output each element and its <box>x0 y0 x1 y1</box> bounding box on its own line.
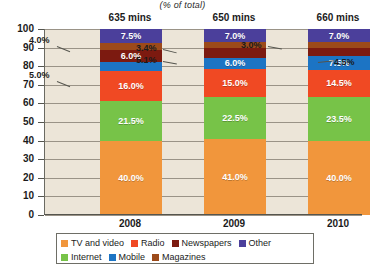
callout-label: 5.0% <box>29 70 50 80</box>
y-axis-tick <box>38 103 44 104</box>
y-axis-tick-label: 70 <box>0 79 34 90</box>
x-axis-label-2010: 2010 <box>288 218 374 229</box>
y-axis-tick <box>38 48 44 49</box>
legend-item-newspapers[interactable]: Newspapers <box>172 238 232 248</box>
bar-segment-newspapers <box>308 48 370 56</box>
bar-segment-mobile: 6.0% <box>204 58 266 69</box>
legend-swatch <box>239 240 246 247</box>
grid-line <box>45 215 362 216</box>
x-axis-label-2009: 2009 <box>184 218 284 229</box>
y-axis-tick <box>38 66 44 67</box>
y-axis-tick <box>38 215 44 216</box>
bar-segment-internet: 21.5% <box>100 101 162 141</box>
legend-item-other[interactable]: Other <box>239 238 272 248</box>
group-note-2008: 635 mins <box>80 12 180 23</box>
y-axis-tick-label: 60 <box>0 97 34 108</box>
legend-item-mobile[interactable]: Mobile <box>109 252 146 262</box>
plot-area: 40.0%21.5%16.0%6.0%7.5%41.0%22.5%15.0%6.… <box>44 29 362 215</box>
legend-label: TV and video <box>71 238 124 248</box>
chart-legend: TV and videoRadioNewspapersOther Interne… <box>56 233 314 264</box>
bar-2009: 41.0%22.5%15.0%6.0%7.0% <box>204 29 266 215</box>
bar-segment-radio: 16.0% <box>100 71 162 101</box>
bar-segment-radio: 14.5% <box>308 70 370 97</box>
legend-swatch <box>61 254 68 261</box>
legend-item-internet[interactable]: Internet <box>61 252 102 262</box>
legend-label: Magazines <box>162 252 206 262</box>
group-note-2009: 650 mins <box>184 12 284 23</box>
legend-item-magazines[interactable]: Magazines <box>152 252 206 262</box>
bar-segment-other: 7.5% <box>100 29 162 43</box>
y-axis-tick-label: 40 <box>0 135 34 146</box>
y-axis-tick <box>38 85 44 86</box>
bar-segment-internet: 22.5% <box>204 97 266 139</box>
bar-segment-tv-and-video: 40.0% <box>100 141 162 215</box>
callout-label: 3.4% <box>136 43 157 53</box>
legend-label: Newspapers <box>182 238 232 248</box>
x-axis-categories: 200820092010 <box>44 218 362 232</box>
legend-swatch <box>152 254 159 261</box>
legend-item-radio[interactable]: Radio <box>131 238 165 248</box>
y-axis-tick <box>38 159 44 160</box>
y-axis-tick-label: 100 <box>0 23 34 34</box>
bar-segment-radio: 15.0% <box>204 69 266 97</box>
y-axis-tick <box>38 196 44 197</box>
legend-swatch <box>131 240 138 247</box>
legend-label: Radio <box>141 238 165 248</box>
legend-label: Other <box>249 238 272 248</box>
legend-item-tv-and-video[interactable]: TV and video <box>61 238 124 248</box>
y-axis-tick-label: 20 <box>0 172 34 183</box>
legend-swatch <box>61 240 68 247</box>
legend-row-2: InternetMobileMagazines <box>61 250 309 264</box>
callout-label: 4.5% <box>334 57 355 67</box>
chart-subtitle: (% of total) <box>0 0 365 10</box>
bar-segment-other: 7.0% <box>308 29 370 42</box>
y-axis-tick-label: 0 <box>0 209 34 220</box>
callout-label: 3.0% <box>241 40 262 50</box>
y-axis-tick-label: 10 <box>0 190 34 201</box>
bar-segment-tv-and-video: 41.0% <box>204 139 266 215</box>
legend-label: Mobile <box>119 252 146 262</box>
legend-row-1: TV and videoRadioNewspapersOther <box>61 236 309 250</box>
x-axis-line <box>44 214 362 215</box>
y-axis-tick-label: 30 <box>0 153 34 164</box>
x-axis-label-2008: 2008 <box>80 218 180 229</box>
y-axis-tick <box>38 178 44 179</box>
y-axis-tick <box>38 122 44 123</box>
y-axis-tick <box>38 141 44 142</box>
y-axis-tick <box>38 29 44 30</box>
legend-label: Internet <box>71 252 102 262</box>
callout-label: 5.1% <box>136 55 157 65</box>
bar-segment-internet: 23.5% <box>308 97 370 141</box>
group-note-row: 635 mins650 mins660 mins <box>44 12 362 26</box>
bar-segment-tv-and-video: 40.0% <box>308 141 370 215</box>
legend-swatch <box>172 240 179 247</box>
legend-swatch <box>109 254 116 261</box>
callout-label: 4.0% <box>29 35 50 45</box>
group-note-2010: 660 mins <box>288 12 374 23</box>
y-axis-tick-label: 50 <box>0 116 34 127</box>
